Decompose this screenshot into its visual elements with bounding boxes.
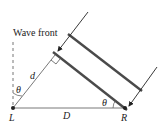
D-label: D xyxy=(62,110,71,121)
d-label: d xyxy=(30,70,36,81)
theta-left-label: θ xyxy=(16,84,21,95)
theta-right-label: θ xyxy=(102,97,107,108)
distance-d-line xyxy=(13,55,55,108)
L-label: L xyxy=(8,112,15,123)
wave-front-label: Wave front xyxy=(13,27,58,38)
point-L xyxy=(11,106,15,110)
R-label: R xyxy=(120,112,127,123)
point-R xyxy=(123,106,127,110)
wavefront-bar-upper xyxy=(68,34,142,91)
wavefront-bar-lower xyxy=(53,52,127,110)
right-angle-mark xyxy=(51,59,60,64)
wavefront-diagram: Wave front d θ D θ L R xyxy=(0,0,168,125)
ray-arrow-lower xyxy=(129,67,157,106)
